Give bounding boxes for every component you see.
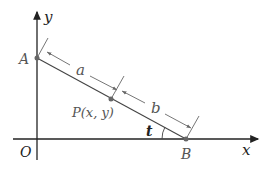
dim-tick-b [186,116,199,139]
angle-t-arc [162,127,165,139]
point-b-label: B [180,146,191,162]
dim-line-a-2 [90,76,117,90]
point-a-label: A [17,51,29,67]
origin-label: O [20,144,32,160]
dim-tick-a [37,38,48,58]
angle-t-label: t [146,123,153,139]
point-a [35,56,40,61]
dim-line-a-1 [47,52,70,65]
point-p-label: P(x, y) [71,105,114,120]
x-axis-label: x [242,141,251,159]
segment-b-label: b [151,99,161,117]
diagram-canvas: y x O A B P(x, y) a b t [0,0,268,173]
segment-a-label: a [76,61,85,79]
dim-line-b-1 [122,91,145,103]
y-axis-label: y [43,8,53,26]
point-p [109,97,114,102]
point-b [184,137,189,142]
dim-line-b-2 [165,114,191,128]
